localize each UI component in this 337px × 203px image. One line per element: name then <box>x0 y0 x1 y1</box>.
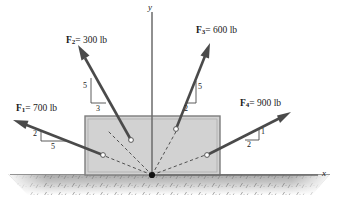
slope-vertical-f1: 2 <box>33 130 37 138</box>
force-diagram-figure: y x F1= 700 lb 2 5 F2= 300 lb 5 3 F3= 60… <box>0 0 337 203</box>
slope-vertical-f3: 5 <box>198 83 202 91</box>
force-equals-f1: = <box>25 103 30 113</box>
slope-vertical-f4: 1 <box>261 128 265 136</box>
force-label-f4: F4= 900 lb <box>240 99 281 109</box>
slope-horizontal-f3: 2 <box>184 105 188 113</box>
slope-horizontal-f4: 2 <box>247 141 251 149</box>
ground-surface <box>8 174 330 195</box>
origin-dot <box>149 172 155 178</box>
slope-vertical-f2: 5 <box>83 82 87 90</box>
force-label-f1: F1= 700 lb <box>16 104 57 114</box>
force-equals-f4: = <box>249 98 254 108</box>
force-label-f3: F3= 600 lb <box>196 26 237 36</box>
y-axis-label: y <box>148 3 152 12</box>
force-equals-f3: = <box>205 25 210 35</box>
slope-horizontal-f2: 3 <box>96 105 100 113</box>
force-magnitude-f3: 600 lb <box>213 25 237 35</box>
force-magnitude-f1: 700 lb <box>33 103 57 113</box>
force-label-f2: F2= 300 lb <box>66 36 107 46</box>
x-axis-label: x <box>322 169 326 178</box>
slope-horizontal-f1: 5 <box>51 143 55 151</box>
force-magnitude-f2: 300 lb <box>83 35 107 45</box>
force-magnitude-f4: 900 lb <box>257 98 281 108</box>
diagram-canvas <box>0 0 337 203</box>
force-equals-f2: = <box>75 35 80 45</box>
